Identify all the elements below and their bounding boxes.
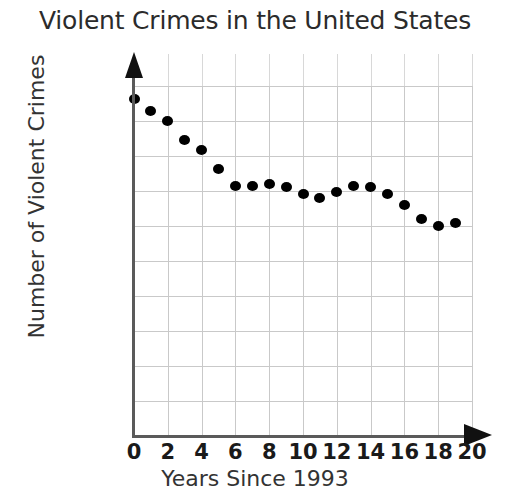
- x-axis-line: [133, 435, 475, 438]
- y-axis-line: [132, 74, 135, 438]
- gridline-vertical-extension: [337, 54, 338, 86]
- gridline-vertical-extension: [269, 54, 270, 86]
- data-point: [382, 189, 393, 199]
- gridline-vertical: [168, 86, 169, 436]
- data-point: [247, 181, 258, 191]
- y-axis-arrow-icon: [125, 52, 143, 78]
- gridline-vertical-extension: [168, 54, 169, 86]
- data-point: [196, 145, 207, 155]
- data-point: [450, 218, 461, 228]
- gridline-vertical: [404, 86, 405, 436]
- gridline-vertical-extension: [371, 54, 372, 86]
- gridline-vertical-extension: [438, 54, 439, 86]
- data-point: [416, 214, 427, 224]
- data-point: [433, 221, 444, 231]
- data-point: [348, 181, 359, 191]
- data-point: [145, 106, 156, 116]
- gridline-vertical-extension: [404, 54, 405, 86]
- data-point: [264, 179, 275, 189]
- data-point: [213, 164, 224, 174]
- gridline-vertical: [438, 86, 439, 436]
- data-point: [314, 193, 325, 203]
- data-point: [281, 182, 292, 192]
- gridline-vertical-extension: [235, 54, 236, 86]
- y-axis-label: Number of Violent Crimes: [24, 59, 49, 339]
- gridline-vertical: [269, 86, 270, 436]
- gridline-vertical: [472, 86, 473, 436]
- violent-crimes-scatter-chart: Violent Crimes in the United States Numb…: [0, 0, 510, 499]
- x-axis-label: Years Since 1993: [0, 466, 510, 491]
- gridline-vertical: [371, 86, 372, 436]
- gridline-vertical: [235, 86, 236, 436]
- gridline-vertical: [337, 86, 338, 436]
- chart-title: Violent Crimes in the United States: [0, 6, 510, 35]
- data-point: [179, 135, 190, 145]
- gridline-vertical: [303, 86, 304, 436]
- data-point: [331, 187, 342, 197]
- plot-area: [134, 86, 472, 436]
- data-point: [298, 189, 309, 199]
- gridline-vertical: [202, 86, 203, 436]
- gridline-vertical-extension: [303, 54, 304, 86]
- data-point: [162, 116, 173, 126]
- data-point: [399, 200, 410, 210]
- x-axis-tick-label: 20: [452, 440, 492, 464]
- data-point: [365, 182, 376, 192]
- gridline-vertical-extension: [472, 54, 473, 86]
- gridline-vertical-extension: [202, 54, 203, 86]
- data-point: [230, 181, 241, 191]
